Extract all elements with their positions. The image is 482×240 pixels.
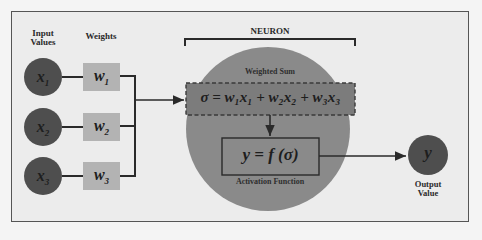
weight-symbol-2: w2 xyxy=(83,117,120,137)
input-values-label: Input Values xyxy=(26,29,60,48)
activation-formula: y = f (σ) xyxy=(222,145,319,165)
weight-symbol-1: w1 xyxy=(83,67,120,87)
output-symbol: y xyxy=(413,143,443,163)
input-symbol-2: x2 xyxy=(28,118,58,138)
weighted-sum-caption: Weighted Sum xyxy=(218,68,322,76)
weight-symbol-3: w3 xyxy=(83,166,120,186)
weights-label: Weights xyxy=(78,32,124,41)
input-symbol-1: x1 xyxy=(28,68,58,88)
neuron-bracket xyxy=(185,39,355,46)
output-caption: Output Value xyxy=(410,180,446,198)
weighted-sum-formula: σ = w₁x₁ + w₂x₂ + w₃x₃ xyxy=(186,89,355,106)
activation-caption: Activation Function xyxy=(210,178,330,186)
input-symbol-3: x3 xyxy=(28,167,58,187)
neuron-title: NEURON xyxy=(230,27,310,36)
